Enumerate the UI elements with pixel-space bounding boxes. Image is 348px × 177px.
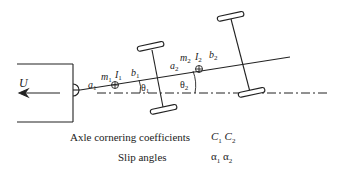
legend: Axle cornering coefficients C1 C2 Slip a…: [0, 0, 348, 177]
legend-symbol: C1 C2: [211, 130, 235, 145]
legend-symbol: α1 α2: [211, 150, 232, 165]
legend-name: Axle cornering coefficients: [70, 131, 195, 143]
legend-name: Slip angles: [118, 151, 198, 163]
